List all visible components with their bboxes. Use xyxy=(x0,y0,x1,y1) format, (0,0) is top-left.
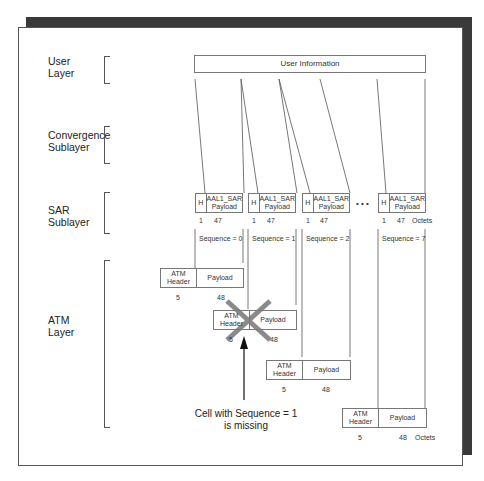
missing-cell-annotation: Cell with Sequence = 1 is missing xyxy=(186,408,306,432)
atm-header: ATM Header xyxy=(214,311,249,329)
octets-label: Octets xyxy=(415,434,435,441)
sar-header: H xyxy=(196,194,206,212)
size-label: 47 xyxy=(320,217,328,224)
size-label: 5 xyxy=(358,434,362,441)
size-label: 1 xyxy=(252,217,256,224)
size-label: 48 xyxy=(399,434,407,441)
atm-header: ATM Header xyxy=(343,409,378,427)
sar-cell-7: H AAL1_SAR Payload xyxy=(378,193,426,213)
sar-cell-2: H AAL1_SAR Payload xyxy=(302,193,350,213)
sequence-label: Sequence = 0 xyxy=(199,235,242,242)
size-label: 1 xyxy=(382,217,386,224)
size-label: 47 xyxy=(214,217,222,224)
sequence-label: Sequence = 7 xyxy=(382,235,425,242)
sequence-label: Sequence = 2 xyxy=(306,235,349,242)
sar-header: H xyxy=(249,194,259,212)
atm-payload: Payload xyxy=(196,269,243,287)
size-label: 1 xyxy=(306,217,310,224)
atm-payload: Payload xyxy=(378,409,426,427)
atm-cell-0: ATM Header Payload xyxy=(160,268,244,288)
sar-header: H xyxy=(379,194,389,212)
sar-header: H xyxy=(303,194,313,212)
atm-payload: Payload xyxy=(249,311,296,329)
sar-payload: AAL1_SAR Payload xyxy=(313,194,349,212)
sar-payload: AAL1_SAR Payload xyxy=(259,194,295,212)
sar-payload: AAL1_SAR Payload xyxy=(206,194,242,212)
atm-payload: Payload xyxy=(302,361,350,379)
atm-cell-1-missing: ATM Header Payload xyxy=(213,310,297,330)
size-label: 5 xyxy=(176,294,180,301)
atm-header: ATM Header xyxy=(161,269,196,287)
size-label: 5 xyxy=(282,386,286,393)
atm-header: ATM Header xyxy=(267,361,302,379)
atm-cell-7: ATM Header Payload xyxy=(342,408,427,428)
sar-cell-0: H AAL1_SAR Payload xyxy=(195,193,243,213)
octets-label: Octets xyxy=(412,217,432,224)
size-label: 5 xyxy=(229,336,233,343)
sar-payload: AAL1_SAR Payload xyxy=(389,194,425,212)
size-label: 47 xyxy=(267,217,275,224)
size-label: 47 xyxy=(397,217,405,224)
atm-cell-2: ATM Header Payload xyxy=(266,360,351,380)
size-label: 48 xyxy=(217,294,225,301)
size-label: 1 xyxy=(199,217,203,224)
ellipsis: • • • xyxy=(356,199,369,208)
size-label: 48 xyxy=(322,386,330,393)
sequence-label: Sequence = 1 xyxy=(252,235,295,242)
size-label: 48 xyxy=(270,336,278,343)
sar-cell-1: H AAL1_SAR Payload xyxy=(248,193,296,213)
